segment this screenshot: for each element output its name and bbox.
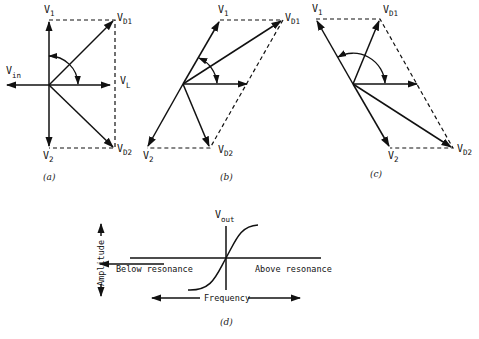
label-vd2: VD2 [218, 144, 233, 158]
label-v1: V1 [44, 4, 55, 18]
label-vd2: VD2 [117, 143, 132, 157]
vd2-vector [49, 85, 113, 147]
phasor-diagram-figure: V1 VD1 Vin VL V2 VD2 (a) V1 VD1 V2 VD2 (… [0, 0, 479, 339]
label-vd1: VD1 [117, 12, 132, 26]
label-v1: V1 [312, 3, 323, 17]
label-v1: V1 [218, 4, 229, 18]
vd2-vector [353, 84, 451, 147]
label-vin: Vin [6, 65, 21, 80]
label-v2: V2 [388, 150, 399, 164]
vd1-vector [183, 21, 281, 84]
panel-a [7, 20, 115, 148]
label-above-resonance: Above resonance [255, 264, 332, 274]
panel-d [100, 224, 321, 298]
panel-d-labels: Vout Amplitude Below resonance Above res… [96, 209, 332, 327]
panel-c-labels: V1 VD1 V2 VD2 (c) [312, 3, 472, 179]
v2-vector [353, 84, 389, 146]
label-v2: V2 [43, 150, 54, 164]
vd1-vector [353, 21, 379, 84]
v2-vector [148, 84, 183, 146]
vd2-vector [183, 84, 209, 146]
panel-b [147, 20, 283, 148]
panel-b-labels: V1 VD1 V2 VD2 (b) [143, 4, 300, 182]
label-vout: Vout [215, 209, 235, 224]
label-vd1: VD1 [285, 12, 300, 26]
label-v2: V2 [143, 150, 154, 164]
phase-angle-arc [199, 58, 217, 83]
panel-a-labels: V1 VD1 Vin VL V2 VD2 (a) [6, 4, 132, 182]
label-vd1: VD1 [383, 4, 398, 18]
label-vd2: VD2 [457, 143, 472, 157]
caption-a: (a) [43, 172, 56, 182]
phase-angle-arc [338, 53, 385, 83]
label-below-resonance: Below resonance [116, 264, 193, 274]
v1-vector [317, 21, 353, 84]
caption-d: (d) [220, 317, 233, 327]
label-vl: VL [120, 75, 131, 90]
dashed-construction-lines [49, 20, 115, 148]
label-amplitude: Amplitude [96, 240, 106, 286]
v1-vector [183, 22, 219, 84]
label-frequency: Frequency [204, 293, 250, 303]
panel-c [316, 19, 453, 148]
vd1-vector [49, 21, 113, 85]
caption-c: (c) [370, 169, 383, 179]
caption-b: (b) [220, 172, 233, 182]
